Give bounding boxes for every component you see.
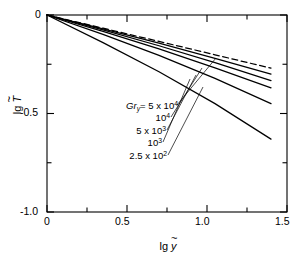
curve-gr-y-10-3 xyxy=(47,15,271,104)
series-label-gr-5e3: 5 x 103 xyxy=(100,125,166,136)
gr-equals: = xyxy=(140,100,146,111)
gr-1e3-base: 10 xyxy=(148,137,159,148)
gr-5e3-times: x xyxy=(144,125,149,136)
series-label-gr-1e4: 104 xyxy=(110,112,170,123)
gr-5e4-times: x xyxy=(156,100,161,111)
leader-gr-25e2 xyxy=(168,87,203,155)
gr-25e2-times: x xyxy=(145,150,150,161)
y-axis-title: lg T ~ xyxy=(7,75,25,135)
gr-25e2-exponent: 2 xyxy=(163,150,167,157)
gr-1e3-exponent: 3 xyxy=(158,137,162,144)
y-tick-label-m1-0: -1.0 xyxy=(20,205,38,217)
gr-25e2-base: 10 xyxy=(153,150,164,161)
x-tick-label-1-0: 1.0 xyxy=(195,215,210,227)
y-tick-label-m0-5: -0.5 xyxy=(20,106,38,118)
series-label-gr-25e2: 2.5 x 102 xyxy=(88,150,167,161)
x-axis-title: lg y ~ xyxy=(128,236,208,254)
series-label-gr-1e3: 103 xyxy=(102,137,162,148)
gr-5e3-base: 10 xyxy=(152,125,163,136)
y-axis-title-symbol-group: T ~ xyxy=(11,96,23,103)
x-axis-title-prefix: lg xyxy=(159,240,168,252)
gr-5e4-exponent: 4 xyxy=(174,100,178,107)
x-axis-tilde: ~ xyxy=(171,233,177,244)
series-label-gr-5e4: Gry= 5 x 104 xyxy=(80,100,178,112)
x-tick-label-0-5: 0.5 xyxy=(115,215,130,227)
y-tick-label-0: 0 xyxy=(35,8,41,20)
gr-5e3-mantissa: 5 xyxy=(136,125,141,136)
gr-5e4-base: 10 xyxy=(164,100,175,111)
x-tick-label-1-5: 1.5 xyxy=(275,215,290,227)
gr-symbol: Gr xyxy=(126,100,137,111)
y-axis-tilde: ~ xyxy=(4,96,15,103)
gr-1e4-exponent: 4 xyxy=(166,112,170,119)
x-tick-label-0: 0 xyxy=(44,215,50,227)
gr-5e3-exponent: 3 xyxy=(162,125,166,132)
gr-1e4-base: 10 xyxy=(156,112,167,123)
gr-5e4-mantissa: 5 xyxy=(148,100,153,111)
x-axis-title-symbol-group: y ~ xyxy=(171,240,177,252)
gr-25e2-mantissa: 2.5 xyxy=(129,150,142,161)
